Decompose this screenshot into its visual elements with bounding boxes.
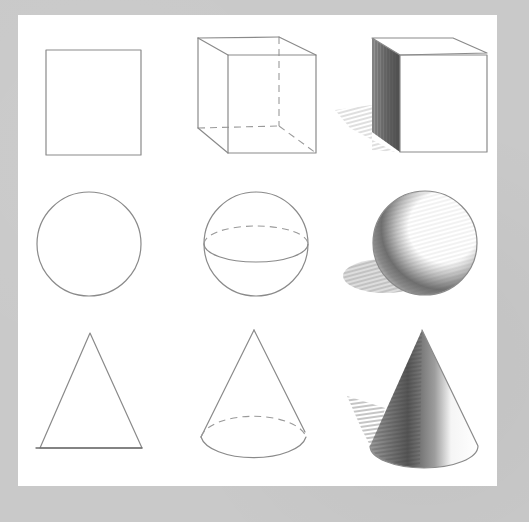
cone-shaded [347, 330, 478, 468]
cube-shaded [335, 38, 487, 152]
cone-wireframe [201, 330, 306, 458]
sphere-shaded [343, 191, 477, 295]
triangle-outline [36, 333, 142, 448]
sphere-wireframe [204, 192, 308, 296]
circle-outline [37, 192, 141, 296]
square-outline [46, 50, 141, 155]
drawing-canvas [0, 0, 529, 522]
cube-wireframe [198, 37, 316, 153]
